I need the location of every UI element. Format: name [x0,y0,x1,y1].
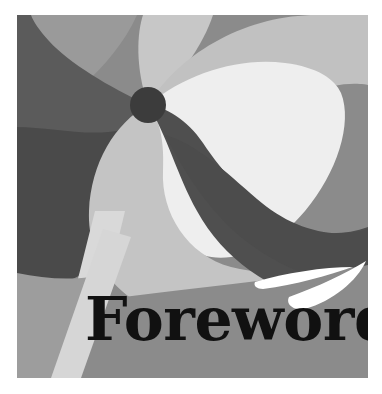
pinwheel-hub-icon [130,87,166,123]
page-root: Foreword [0,0,382,394]
page-title: Foreword [85,284,368,354]
pinwheel-artwork-svg: Foreword [17,15,368,378]
artwork-frame: Foreword [17,15,368,378]
